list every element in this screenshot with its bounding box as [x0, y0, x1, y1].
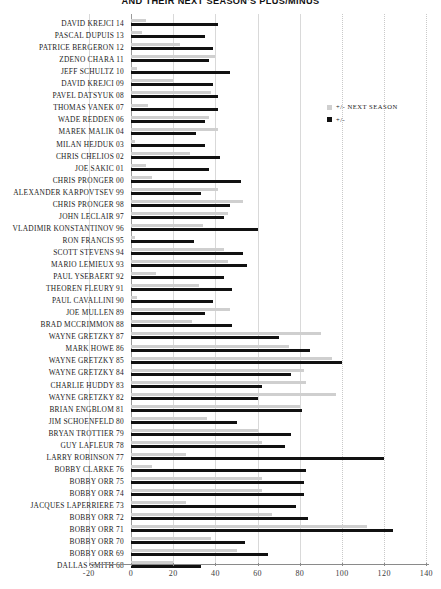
row-label: THEOREN FLEURY 91 [0, 283, 124, 295]
x-tick-label: 60 [253, 569, 262, 578]
bar-next-season [131, 140, 135, 143]
row-label: DAVID KREJCI 14 [0, 18, 124, 30]
row-label: DAVID KREJCI 09 [0, 78, 124, 90]
row-label: WAYNE GRETZKY 87 [0, 331, 124, 343]
bar-next-season [131, 381, 306, 384]
chart-legend: +/- NEXT SEASON +/- [327, 104, 398, 129]
row-label: BOBBY ORR 70 [0, 536, 124, 548]
bar-next-season [131, 393, 336, 396]
bar-row: CHRIS PRONGER 00 [0, 175, 441, 187]
bar-next-season [131, 441, 262, 444]
bar-row: JIM SCHOENFELD 80 [0, 416, 441, 428]
bar-next-season [131, 477, 262, 480]
bar-current [131, 481, 304, 484]
bar-next-season [131, 357, 332, 360]
legend-item-next-season: +/- NEXT SEASON [327, 104, 398, 111]
x-tick-label: 100 [335, 569, 348, 578]
row-label: JEFF SCHULTZ 10 [0, 66, 124, 78]
bar-next-season [131, 453, 186, 456]
row-label: PASCAL DUPUIS 13 [0, 30, 124, 42]
bar-current [131, 132, 196, 135]
tickmark-120 [384, 563, 385, 566]
row-label: BOBBY ORR 72 [0, 512, 124, 524]
bar-next-season [131, 429, 258, 432]
bar-next-season [131, 513, 272, 516]
bar-row: BRIAN ENGBLOM 81 [0, 404, 441, 416]
x-tick-label: 0 [129, 569, 133, 578]
bar-next-season [131, 200, 243, 203]
bar-current [131, 553, 268, 556]
bar-row: MARK HOWE 86 [0, 343, 441, 355]
bar-current [131, 397, 258, 400]
bar-row: PASCAL DUPUIS 13 [0, 30, 441, 42]
bar-current [131, 228, 258, 231]
legend-swatch-current-icon [327, 117, 332, 122]
bar-current [131, 95, 218, 98]
row-label: CHRIS PRONGER 00 [0, 175, 124, 187]
row-label: JOE MULLEN 89 [0, 307, 124, 319]
bar-rows: DAVID KREJCI 14PASCAL DUPUIS 13PATRICE B… [0, 14, 441, 565]
bar-current [131, 336, 279, 339]
bar-current [131, 517, 308, 520]
bar-next-season [131, 104, 148, 107]
bar-row: WAYNE GRETZKY 85 [0, 355, 441, 367]
bar-current [131, 120, 205, 123]
bar-row: BRYAN TROTTIER 79 [0, 428, 441, 440]
bar-current [131, 71, 230, 74]
x-tick-label: 120 [378, 569, 391, 578]
tickmark-100 [342, 563, 343, 566]
bar-current [131, 300, 213, 303]
bar-row: JOE SAKIC 01 [0, 163, 441, 175]
bar-current [131, 47, 213, 50]
bar-next-season [131, 212, 228, 215]
row-label: WAYNE GRETZKY 85 [0, 355, 124, 367]
row-label: JACQUES LAPERRIERE 73 [0, 500, 124, 512]
bar-row: BOBBY ORR 72 [0, 512, 441, 524]
bar-next-season [131, 260, 228, 263]
bar-row: WAYNE GRETZKY 87 [0, 331, 441, 343]
bar-next-season [131, 369, 304, 372]
bar-next-season [131, 236, 135, 239]
bar-current [131, 23, 218, 26]
bar-row: RON FRANCIS 95 [0, 235, 441, 247]
bar-next-season [131, 405, 300, 408]
chart-title: AND THEIR NEXT SEASON'S PLUS/MINUS [0, 0, 441, 9]
bar-next-season [131, 501, 186, 504]
bar-row: ZDENO CHARA 11 [0, 54, 441, 66]
bar-current [131, 361, 342, 364]
bar-row: LARRY ROBINSON 77 [0, 452, 441, 464]
bar-row: BRAD MCCRIMMON 88 [0, 319, 441, 331]
bar-row: DAVID KREJCI 14 [0, 18, 441, 30]
row-label: MILAN HEJDUK 03 [0, 139, 124, 151]
bar-next-season [131, 224, 203, 227]
bar-row: WAYNE GRETZKY 82 [0, 392, 441, 404]
bar-next-season [131, 79, 173, 82]
bar-row: GUY LAFLEUR 78 [0, 440, 441, 452]
x-tick-label: 140 [420, 569, 433, 578]
bar-current [131, 373, 291, 376]
row-label: GUY LAFLEUR 78 [0, 440, 124, 452]
legend-label-next-season: +/- NEXT SEASON [336, 104, 398, 111]
legend-swatch-next-season-icon [327, 105, 332, 110]
bar-row: BOBBY ORR 70 [0, 536, 441, 548]
bar-current [131, 493, 304, 496]
tickmark-80 [300, 563, 301, 566]
bar-current [131, 156, 220, 159]
bar-next-season [131, 308, 230, 311]
bar-next-season [131, 19, 146, 22]
bar-row: JOHN LECLAIR 97 [0, 211, 441, 223]
bar-current [131, 83, 213, 86]
bar-next-season [131, 116, 209, 119]
x-tick-label: 80 [295, 569, 304, 578]
bar-current [131, 216, 224, 219]
bar-row: SCOTT STEVENS 94 [0, 247, 441, 259]
row-label: BRYAN TROTTIER 79 [0, 428, 124, 440]
bar-current [131, 264, 247, 267]
row-label: CHRIS CHELIOS 02 [0, 151, 124, 163]
bar-row: PATRICE BERGERON 12 [0, 42, 441, 54]
row-label: ALEXANDER KARPOVTSEV 99 [0, 187, 124, 199]
bar-next-season [131, 128, 218, 131]
bar-row: BOBBY ORR 74 [0, 488, 441, 500]
bar-row: ALEXANDER KARPOVTSEV 99 [0, 187, 441, 199]
x-axis-ticks: -20020406080100120140 [0, 565, 441, 585]
